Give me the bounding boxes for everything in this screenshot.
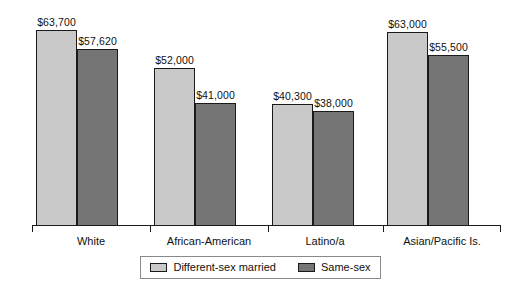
- bar-value-label: $38,000: [303, 97, 364, 109]
- bar-value-label: $63,000: [377, 18, 438, 30]
- legend: Different-sex married Same-sex: [140, 256, 381, 279]
- x-axis-label-white: White: [31, 234, 151, 248]
- bar-value-label: $41,000: [185, 89, 246, 101]
- bar-asian-pacific-same-sex: [428, 55, 469, 226]
- x-axis-tick: [383, 226, 384, 232]
- bar-white-different-sex-married: [36, 30, 77, 226]
- x-axis-label-african-american: African-American: [149, 234, 269, 248]
- legend-label: Same-sex: [321, 261, 371, 274]
- bar-african-american-same-sex: [195, 103, 236, 226]
- legend-item-same-sex: Same-sex: [298, 261, 371, 274]
- legend-swatch-icon: [150, 263, 167, 272]
- x-axis-label-latino: Latino/a: [265, 234, 385, 248]
- x-axis-tick: [32, 226, 33, 232]
- legend-item-different-sex-married: Different-sex married: [150, 261, 276, 274]
- legend-label: Different-sex married: [173, 261, 276, 274]
- bar-white-same-sex: [77, 49, 118, 226]
- x-axis-label-asian-pacific: Asian/Pacific Is.: [382, 234, 502, 248]
- x-axis-tick: [268, 226, 269, 232]
- x-axis-tick: [150, 226, 151, 232]
- bar-value-label: $52,000: [144, 54, 205, 66]
- bar-value-label: $55,500: [418, 41, 479, 53]
- x-axis-line: [32, 225, 501, 226]
- bar-latino-same-sex: [313, 111, 354, 226]
- bar-latino-different-sex-married: [272, 104, 313, 226]
- plot-area: $63,700 $57,620 $52,000 $41,000 $40,300 …: [0, 0, 520, 236]
- legend-swatch-icon: [298, 263, 315, 272]
- bar-asian-pacific-different-sex-married: [387, 32, 428, 226]
- bar-chart: $63,700 $57,620 $52,000 $41,000 $40,300 …: [0, 0, 520, 301]
- bar-value-label: $57,620: [67, 35, 128, 47]
- bar-value-label: $63,700: [26, 16, 87, 28]
- x-axis-tick: [500, 226, 501, 232]
